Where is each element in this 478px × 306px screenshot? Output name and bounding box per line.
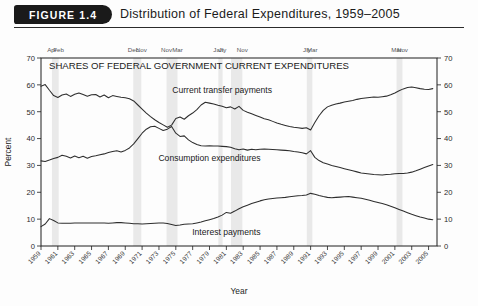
recession-band [52,58,59,246]
y-tick-label-right: 60 [444,81,452,90]
x-tick-label: 1991 [296,250,312,266]
header-divider [14,27,464,28]
y-tick-label-right: 70 [444,54,452,63]
plot-title: SHARES OF FEDERAL GOVERNMENT CURRENT EXP… [49,60,349,71]
recession-month-label: Nov [136,46,148,53]
y-tick-label-left: 10 [27,215,35,224]
y-axis-right-ticks: 010203040506070 [437,54,452,251]
y-tick-label-left: 50 [27,108,35,117]
recession-month-label: Mar [307,46,318,53]
x-tick-label: 1985 [245,250,261,266]
x-tick-label: 1973 [144,250,160,266]
y-tick-label-left: 30 [27,161,35,170]
chart-container: AprFebDecNovNovMarJanJlyNovJlyMarMarNov … [0,30,478,306]
y-tick-label-right: 50 [444,108,452,117]
x-tick-label: 1979 [195,250,211,266]
recession-month-labels: AprFebDecNovNovMarJanJlyNovJlyMarMarNov [47,46,409,53]
y-tick-label-left: 40 [27,134,35,143]
y-tick-label-right: 10 [444,215,452,224]
series-label: Current transfer payments [172,85,272,95]
x-tick-label: 1959 [26,250,42,266]
y-tick-label-right: 20 [444,188,452,197]
recession-month-label: Nov [161,46,173,53]
x-tick-label: 1981 [212,250,228,266]
x-tick-label: 1999 [363,250,379,266]
expenditures-line-chart: AprFebDecNovNovMarJanJlyNovJlyMarMarNov … [0,30,478,306]
figure-number-label: FIGURE 1.4 [29,9,97,21]
x-tick-label: 1987 [262,250,278,266]
x-tick-label: 1989 [279,250,295,266]
x-tick-label: 1993 [313,250,329,266]
x-tick-label: 2003 [397,250,413,266]
x-tick-label: 1965 [77,250,93,266]
y-tick-label-right: 0 [444,242,448,251]
recession-band [133,58,141,246]
series-label: Consumption expenditures [158,153,260,163]
x-tick-label: 1971 [127,250,143,266]
x-axis-ticks: 1959196119631965196719691971197319751977… [26,246,429,265]
x-tick-label: 1997 [347,250,363,266]
y-tick-label-left: 0 [31,242,35,251]
recession-month-label: Nov [237,46,249,53]
y-tick-label-left: 60 [27,81,35,90]
x-tick-label: 1975 [161,250,177,266]
recession-month-label: Feb [53,46,64,53]
y-tick-label-right: 40 [444,134,452,143]
y-tick-label-right: 30 [444,161,452,170]
x-tick-label: 1995 [330,250,346,266]
x-tick-label: 2001 [380,250,396,266]
recession-month-label: Mar [172,46,183,53]
y-axis-label: Percent [3,137,13,167]
x-tick-label: 1963 [60,250,76,266]
x-tick-label: 1977 [178,250,194,266]
figure-number-banner: FIGURE 1.4 [14,5,112,24]
x-tick-label: 1983 [229,250,245,266]
y-axis-left-ticks: 010203040506070 [27,54,41,251]
x-tick-label: 1961 [43,250,59,266]
y-tick-label-left: 70 [27,54,35,63]
x-tick-label: 1967 [94,250,110,266]
x-axis-label: Year [231,286,248,296]
figure-title: Distribution of Federal Expenditures, 19… [120,7,400,21]
series-label: Interest payments [192,227,260,237]
recession-month-label: Nov [397,46,409,53]
recession-month-label: Jly [219,46,227,53]
x-tick-label: 1969 [111,250,127,266]
y-tick-label-left: 20 [27,188,35,197]
figure-page: FIGURE 1.4 Distribution of Federal Expen… [0,0,478,306]
x-tick-label: 2005 [414,250,430,266]
recession-band [397,58,403,246]
